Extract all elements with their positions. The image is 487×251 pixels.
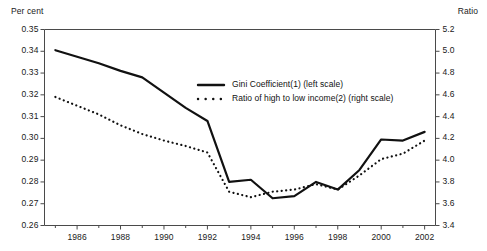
series-line-0 [55, 50, 424, 198]
series-line-1 [55, 97, 424, 197]
right-axis-tick-label: 4.4 [443, 111, 469, 121]
x-axis-tick-label: 1992 [187, 232, 227, 242]
left-axis-tick-label: 0.27 [13, 198, 39, 208]
right-axis-tick-label: 4.8 [443, 67, 469, 77]
right-axis-tick-label: 5.2 [443, 24, 469, 34]
x-axis-tick-label: 2000 [361, 232, 401, 242]
x-axis-tick-label: 1988 [101, 232, 141, 242]
right-axis-tick-label: 5.0 [443, 45, 469, 55]
x-axis-tick-label: 1986 [57, 232, 97, 242]
left-axis-tick-label: 0.31 [13, 111, 39, 121]
right-axis-tick-label: 3.6 [443, 198, 469, 208]
x-axis-tick-label: 1994 [231, 232, 271, 242]
left-axis-tick-label: 0.35 [13, 24, 39, 34]
right-axis-tick-label: 4.6 [443, 89, 469, 99]
legend-item-label: Gini Coefficient(1) (left scale) [232, 79, 343, 89]
left-axis-tick-label: 0.28 [13, 176, 39, 186]
x-axis-tick-label: 1998 [318, 232, 358, 242]
plot-frame [45, 30, 436, 226]
x-axis-tick-label: 1990 [144, 232, 184, 242]
left-axis-tick-label: 0.34 [13, 45, 39, 55]
chart-container: Per cent Ratio 0.260.270.280.290.300.310… [0, 0, 487, 251]
right-axis-tick-label: 4.2 [443, 132, 469, 142]
x-axis-tick-label: 1996 [274, 232, 314, 242]
right-axis-tick-label: 4.0 [443, 154, 469, 164]
axis-ticks [41, 30, 440, 230]
chart-plot-area [0, 0, 487, 251]
left-axis-tick-label: 0.29 [13, 154, 39, 164]
plot-border [45, 30, 436, 226]
left-axis-tick-label: 0.32 [13, 89, 39, 99]
legend-item-label: Ratio of high to low income(2) (right sc… [232, 93, 393, 103]
right-axis-tick-label: 3.4 [443, 220, 469, 230]
left-axis-tick-label: 0.26 [13, 220, 39, 230]
right-axis-tick-label: 3.8 [443, 176, 469, 186]
left-axis-tick-label: 0.30 [13, 132, 39, 142]
left-axis-unit-label: Per cent [11, 6, 43, 16]
legend-swatches [198, 85, 224, 99]
data-series-group [55, 50, 424, 198]
x-axis-tick-label: 2002 [405, 232, 445, 242]
right-axis-unit-label: Ratio [458, 6, 478, 16]
left-axis-tick-label: 0.33 [13, 67, 39, 77]
